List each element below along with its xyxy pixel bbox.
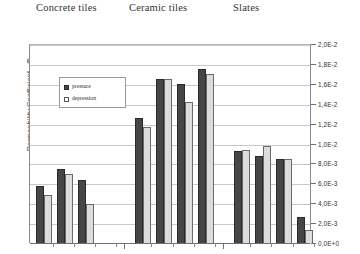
- y-axis-tick: [311, 163, 316, 164]
- y-axis-tick: [311, 144, 316, 145]
- bar-depression-S1: [242, 150, 250, 243]
- bar-depression-S3: [284, 159, 292, 243]
- bar-pressure-S1: [234, 151, 242, 243]
- legend-swatch-pressure-icon: [64, 85, 69, 90]
- y-axis-tick: [311, 223, 316, 224]
- bar-pressure-C3: [78, 180, 86, 243]
- y-axis-tick-label: 2,0E-2: [318, 41, 337, 48]
- bar-pressure-S3: [276, 159, 284, 243]
- bar-depression-C1: [44, 195, 52, 243]
- bars-layer: [30, 45, 310, 243]
- bar-pressure-S2: [255, 156, 263, 243]
- x-axis-tick: [151, 243, 152, 247]
- bar-depression-C2: [65, 174, 73, 243]
- bar-pressure-C2: [57, 169, 65, 243]
- y-axis-tick-label: 1,4E-2: [318, 100, 337, 107]
- y-axis-tick: [311, 124, 316, 125]
- bar-depression-K4: [206, 74, 214, 243]
- y-axis-tick-label: 1,8E-2: [318, 60, 337, 67]
- bar-depression-S2: [263, 146, 271, 244]
- x-axis-tick: [293, 243, 294, 247]
- x-axis-tick: [116, 243, 117, 247]
- bar-depression-K2: [164, 79, 172, 243]
- y-axis-tick: [311, 84, 316, 85]
- y-axis-tick: [311, 183, 316, 184]
- legend-item-depression: depression: [64, 93, 125, 105]
- bar-pressure-C1: [36, 186, 44, 243]
- group-heading-concrete-tiles: Concrete tiles: [36, 2, 97, 13]
- bar-depression-K1: [143, 127, 151, 243]
- x-axis-tick: [95, 243, 96, 247]
- x-axis-tick: [215, 243, 216, 247]
- y-axis-tick: [311, 64, 316, 65]
- y-axis-tick: [311, 44, 316, 45]
- x-axis-ticks: [29, 243, 311, 250]
- x-axis-tick: [53, 243, 54, 247]
- legend-label-pressure: pressure: [72, 84, 91, 90]
- x-axis-tick: [250, 243, 251, 247]
- y-axis-tick-label: 1,6E-2: [318, 80, 337, 87]
- bar-pressure-K4: [198, 69, 206, 243]
- bar-pressure-K2: [156, 79, 164, 243]
- y-axis-tick: [311, 203, 316, 204]
- x-axis-tick: [74, 243, 75, 247]
- bar-pressure-S4: [297, 217, 305, 243]
- y-axis-right: 2,0E-21,8E-21,6E-21,4E-21,2E-21,0E-28,0E…: [311, 44, 360, 244]
- y-axis-tick: [311, 104, 316, 105]
- y-axis-tick-label: 1,0E-2: [318, 140, 337, 147]
- x-axis-tick: [271, 243, 272, 247]
- legend-label-depression: depression: [72, 96, 96, 102]
- y-axis-tick-label: 8,0E-3: [318, 160, 337, 167]
- x-axis-group-separator: [223, 243, 224, 249]
- y-axis-tick-label: 0,0E+0: [318, 240, 339, 247]
- y-axis-tick-label: 2,0E-3: [318, 220, 337, 227]
- y-axis-tick-label: 6,0E-3: [318, 180, 337, 187]
- legend-item-pressure: pressure: [64, 81, 125, 93]
- group-headings: Concrete tiles Ceramic tiles Slates: [0, 0, 360, 22]
- bar-pressure-K3: [177, 84, 185, 243]
- permeability-bar-chart: Concrete tiles Ceramic tiles Slates Perm…: [0, 0, 360, 254]
- y-axis-tick-label: 4,0E-3: [318, 200, 337, 207]
- bar-pressure-K1: [135, 118, 143, 243]
- x-axis-group-separator: [124, 243, 125, 249]
- y-axis-tick-label: 1,2E-2: [318, 120, 337, 127]
- x-axis-tick: [194, 243, 195, 247]
- chart-legend: pressure depression: [59, 77, 126, 108]
- group-heading-ceramic-tiles: Ceramic tiles: [129, 2, 187, 13]
- y-axis-tick: [311, 243, 316, 244]
- legend-swatch-depression-icon: [64, 97, 69, 102]
- x-axis-tick: [173, 243, 174, 247]
- plot-area: [29, 44, 311, 243]
- group-heading-slates: Slates: [233, 2, 259, 13]
- bar-depression-C3: [86, 204, 94, 243]
- bar-depression-K3: [185, 102, 193, 243]
